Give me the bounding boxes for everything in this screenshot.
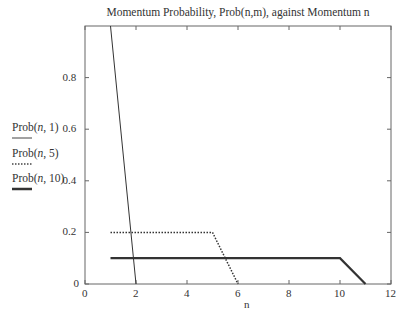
series-line (111, 26, 137, 284)
x-tick-label: 6 (235, 287, 241, 299)
legend-label-suffix: , 1) (43, 121, 58, 133)
x-tick-label: 2 (133, 287, 139, 299)
y-tick-label: 0 (74, 277, 80, 289)
x-tick-label: 4 (184, 287, 190, 299)
legend-label-prefix: Prob( (12, 121, 38, 133)
legend-swatch-thick-solid (12, 187, 32, 191)
y-tick-label: 0.6 (63, 122, 77, 134)
x-tick-label: 0 (82, 287, 88, 299)
legend-label-suffix: , 10) (43, 172, 64, 184)
legend-item-prob-n-1: Prob(n, 1) (12, 121, 59, 140)
axis-ticks (85, 26, 391, 284)
legend-item-prob-n-10: Prob(n, 10) (12, 172, 64, 191)
y-tick-label: 0.2 (63, 225, 77, 237)
legend-swatch-thin-solid (12, 136, 32, 140)
legend-swatch-dotted (12, 162, 32, 166)
plot-area (0, 0, 406, 320)
y-tick-label: 0.8 (63, 71, 77, 83)
data-series (111, 26, 366, 284)
x-tick-label: 8 (286, 287, 292, 299)
legend-item-prob-n-5: Prob(n, 5) (12, 147, 59, 166)
x-tick-label: 12 (385, 287, 396, 299)
legend-label-suffix: , 5) (43, 147, 58, 159)
y-tick-label: 0.4 (63, 174, 77, 186)
x-axis-label: n (244, 298, 250, 310)
plot-frame (85, 26, 391, 284)
legend-label-prefix: Prob( (12, 147, 38, 159)
legend-label-prefix: Prob( (12, 172, 38, 184)
x-tick-label: 10 (334, 287, 345, 299)
